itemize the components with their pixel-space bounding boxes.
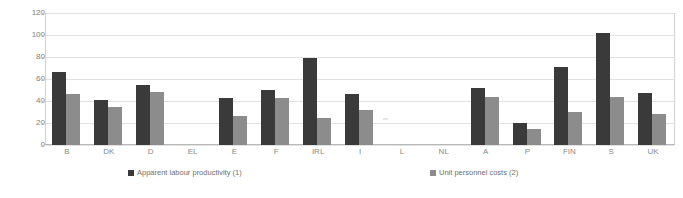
y-tick-label-80: 80 xyxy=(5,53,45,61)
bars-layer xyxy=(46,13,674,145)
bar[interactable] xyxy=(136,85,150,146)
bar[interactable] xyxy=(233,116,247,145)
x-tick-label: I xyxy=(339,147,381,157)
x-tick-label: L xyxy=(381,147,423,157)
legend-item-series1: Apparent labour productivity (1) xyxy=(128,168,242,178)
legend-label-series1: Apparent labour productivity (1) xyxy=(137,168,242,178)
chart-legend: Apparent labour productivity (1) Unit pe… xyxy=(0,168,683,188)
bar[interactable] xyxy=(303,58,317,145)
bar-group xyxy=(46,13,88,145)
y-tick-mark-120 xyxy=(41,13,45,14)
bar[interactable] xyxy=(261,90,275,145)
bar[interactable] xyxy=(108,107,122,146)
bar[interactable] xyxy=(471,88,485,145)
bar-group xyxy=(507,13,549,145)
y-tick-mark-100 xyxy=(41,35,45,36)
x-tick-label: NL xyxy=(423,147,465,157)
bar-group xyxy=(548,13,590,145)
x-tick-label: FIN xyxy=(548,147,590,157)
bar-group xyxy=(297,13,339,145)
bar[interactable] xyxy=(554,67,568,145)
y-tick-label-100: 100 xyxy=(5,31,45,39)
y-tick-label-60: 60 xyxy=(5,75,45,83)
stray-mark xyxy=(383,118,388,120)
x-tick-label: EL xyxy=(172,147,214,157)
x-tick-label: B xyxy=(46,147,88,157)
legend-swatch-series1 xyxy=(128,170,134,176)
bar-group xyxy=(381,13,423,145)
x-tick-label: A xyxy=(465,147,507,157)
y-tick-label-40: 40 xyxy=(5,97,45,105)
x-tick-label: DK xyxy=(88,147,130,157)
bar[interactable] xyxy=(52,72,66,145)
bar[interactable] xyxy=(652,114,666,145)
bar[interactable] xyxy=(485,97,499,145)
y-tick-mark-60 xyxy=(41,79,45,80)
bar[interactable] xyxy=(317,118,331,146)
bar[interactable] xyxy=(568,112,582,145)
x-tick-label: E xyxy=(213,147,255,157)
bar[interactable] xyxy=(513,123,527,145)
bar[interactable] xyxy=(527,129,541,146)
x-axis-labels: BDKDELEFIRLILNLAPFINSUK xyxy=(46,147,674,161)
bar-group xyxy=(255,13,297,145)
y-tick-mark-0 xyxy=(41,145,45,146)
bar[interactable] xyxy=(66,94,80,145)
legend-swatch-series2 xyxy=(430,170,436,176)
y-tick-mark-80 xyxy=(41,57,45,58)
bar-group xyxy=(130,13,172,145)
legend-label-series2: Unit personnel costs (2) xyxy=(439,168,518,178)
bar[interactable] xyxy=(219,98,233,145)
y-tick-label-120: 120 xyxy=(5,9,45,17)
bar[interactable] xyxy=(345,94,359,145)
y-axis: 020406080100120 xyxy=(0,13,45,145)
x-tick-label: F xyxy=(255,147,297,157)
y-tick-mark-20 xyxy=(41,123,45,124)
bar[interactable] xyxy=(596,33,610,145)
bar[interactable] xyxy=(638,93,652,145)
bar[interactable] xyxy=(359,110,373,145)
bar[interactable] xyxy=(150,92,164,145)
x-tick-label: UK xyxy=(632,147,674,157)
bar-group xyxy=(423,13,465,145)
bar-group xyxy=(339,13,381,145)
y-tick-label-20: 20 xyxy=(5,119,45,127)
y-tick-label-0: 0 xyxy=(5,141,45,149)
bar-group xyxy=(172,13,214,145)
y-tick-mark-40 xyxy=(41,101,45,102)
x-tick-label: P xyxy=(507,147,549,157)
bar-chart: 020406080100120 BDKDELEFIRLILNLAPFINSUK … xyxy=(0,0,683,198)
bar[interactable] xyxy=(610,97,624,145)
bar-group xyxy=(590,13,632,145)
bar-group xyxy=(632,13,674,145)
x-tick-label: D xyxy=(130,147,172,157)
bar-group xyxy=(213,13,255,145)
x-tick-label: S xyxy=(590,147,632,157)
bar-group xyxy=(88,13,130,145)
bar[interactable] xyxy=(94,100,108,145)
x-tick-label: IRL xyxy=(297,147,339,157)
legend-item-series2: Unit personnel costs (2) xyxy=(430,168,518,178)
bar-group xyxy=(465,13,507,145)
gridline-0 xyxy=(46,145,674,146)
bar[interactable] xyxy=(275,98,289,145)
